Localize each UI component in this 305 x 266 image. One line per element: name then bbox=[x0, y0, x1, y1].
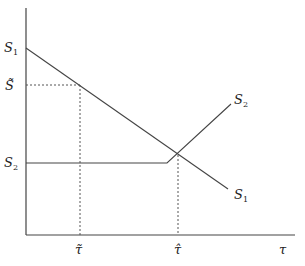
curve-label-s2: S2 bbox=[234, 92, 248, 109]
y-label-s2: S2 bbox=[4, 155, 18, 172]
diagram-canvas: S1 S̃ S2 S2 S1 τ̃ τ̂ τ bbox=[0, 0, 305, 266]
x-label-tau: τ bbox=[279, 242, 287, 257]
curve-label-s1: S1 bbox=[234, 187, 248, 204]
y-label-s1: S1 bbox=[4, 40, 18, 57]
s1-curve bbox=[26, 48, 228, 189]
x-label-tau-hat: τ̂ bbox=[174, 242, 182, 257]
s2-curve bbox=[26, 104, 231, 163]
x-label-tau-tilde: τ̃ bbox=[75, 242, 83, 257]
y-label-s-tilde: S̃ bbox=[5, 78, 14, 93]
